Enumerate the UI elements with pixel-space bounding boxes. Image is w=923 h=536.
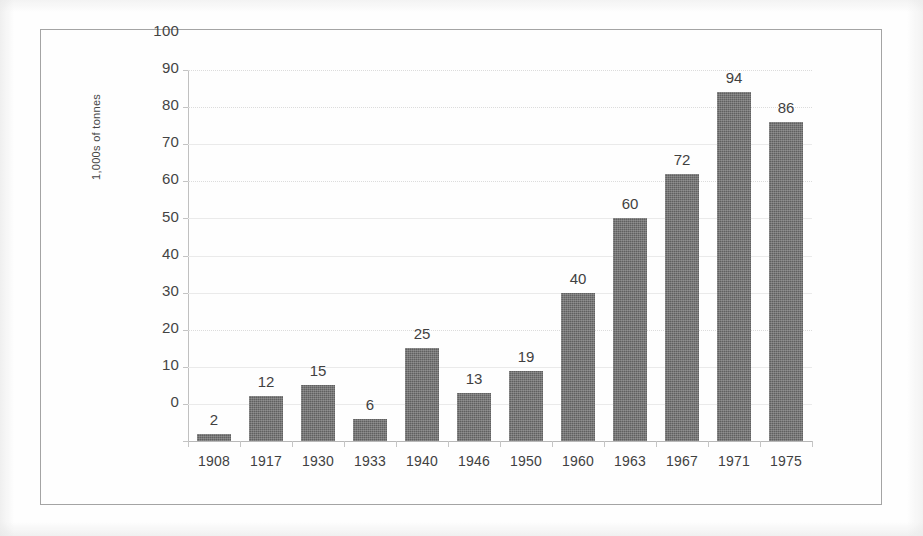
bar-value-label: 13 (448, 371, 500, 386)
bar[interactable] (561, 293, 595, 441)
y-tick-label-100: 100 (153, 23, 179, 38)
x-tick-mark (656, 441, 657, 447)
bar-value-label: 40 (552, 271, 604, 286)
bar-value-label: 15 (292, 363, 344, 378)
bar-value-label: 94 (708, 70, 760, 85)
x-tick-mark (500, 441, 501, 447)
bar-value-label: 6 (344, 397, 396, 412)
chart-frame: 1,000s of tonnes 1009080706050403020100 … (40, 29, 882, 505)
y-tick-label-70: 70 (162, 134, 179, 149)
x-tick-mark (708, 441, 709, 447)
x-tick-label-1967: 1967 (656, 454, 708, 468)
y-axis-title: 1,000s of tonnes (90, 94, 102, 180)
y-tick-label-50: 50 (162, 209, 179, 224)
bar-column[interactable]: 6 (344, 70, 396, 441)
y-tick-mark-20 (183, 367, 188, 368)
x-tick-label-1971: 1971 (708, 454, 760, 468)
plot-area: 2121562513194060729486 (188, 70, 812, 441)
bar[interactable] (405, 348, 439, 441)
x-tick-label-1917: 1917 (240, 454, 292, 468)
y-tick-mark-70 (183, 181, 188, 182)
y-tick-label-20: 20 (162, 320, 179, 335)
bar-column[interactable]: 86 (760, 70, 812, 441)
x-tick-mark (292, 441, 293, 447)
x-tick-mark (448, 441, 449, 447)
y-tick-mark-60 (183, 218, 188, 219)
x-tick-mark (188, 441, 189, 447)
bar-value-label: 2 (188, 412, 240, 427)
bar-column[interactable]: 25 (396, 70, 448, 441)
bar-column[interactable]: 2 (188, 70, 240, 441)
bar-column[interactable]: 40 (552, 70, 604, 441)
x-tick-mark (812, 441, 813, 447)
y-tick-label-90: 90 (162, 60, 179, 75)
y-tick-label-10: 10 (162, 357, 179, 372)
bar[interactable] (509, 371, 543, 441)
x-tick-label-1960: 1960 (552, 454, 604, 468)
bar-value-label: 19 (500, 349, 552, 364)
x-tick-label-1933: 1933 (344, 454, 396, 468)
y-tick-label-40: 40 (162, 246, 179, 261)
bar[interactable] (301, 385, 335, 441)
bar-value-label: 72 (656, 152, 708, 167)
x-tick-label-1930: 1930 (292, 454, 344, 468)
bar-column[interactable]: 94 (708, 70, 760, 441)
bar-value-label: 25 (396, 326, 448, 341)
bar[interactable] (457, 393, 491, 441)
y-tick-label-0: 0 (170, 394, 179, 409)
bar-column[interactable]: 60 (604, 70, 656, 441)
bar[interactable] (249, 396, 283, 441)
bar-column[interactable]: 15 (292, 70, 344, 441)
y-tick-mark-50 (183, 256, 188, 257)
bar-value-label: 60 (604, 196, 656, 211)
x-tick-label-1963: 1963 (604, 454, 656, 468)
y-tick-mark-40 (183, 293, 188, 294)
y-tick-label-60: 60 (162, 171, 179, 186)
x-tick-mark (760, 441, 761, 447)
y-tick-mark-80 (183, 144, 188, 145)
bar[interactable] (613, 218, 647, 441)
y-tick-mark-100 (183, 70, 188, 71)
y-tick-mark-90 (183, 107, 188, 108)
bar-column[interactable]: 19 (500, 70, 552, 441)
y-tick-mark-10 (183, 404, 188, 405)
x-tick-label-1908: 1908 (188, 454, 240, 468)
scanned-page-background: 1,000s of tonnes 1009080706050403020100 … (0, 0, 923, 536)
bar-value-label: 86 (760, 100, 812, 115)
x-tick-label-1950: 1950 (500, 454, 552, 468)
x-tick-label-1940: 1940 (396, 454, 448, 468)
x-tick-mark (396, 441, 397, 447)
bar[interactable] (769, 122, 803, 441)
y-axis-tick-labels: 1009080706050403020100 (127, 30, 179, 504)
y-tick-label-80: 80 (162, 97, 179, 112)
bar-column[interactable]: 12 (240, 70, 292, 441)
x-axis-tick-labels: 1908191719301933194019461950196019631967… (188, 454, 813, 478)
x-tick-mark (604, 441, 605, 447)
bar[interactable] (353, 419, 387, 441)
bar-value-label: 12 (240, 374, 292, 389)
bar-column[interactable]: 13 (448, 70, 500, 441)
x-tick-mark (344, 441, 345, 447)
bar-column[interactable]: 72 (656, 70, 708, 441)
x-tick-label-1975: 1975 (760, 454, 812, 468)
bar[interactable] (197, 434, 231, 441)
x-tick-mark (240, 441, 241, 447)
x-tick-mark (552, 441, 553, 447)
y-tick-mark-30 (183, 330, 188, 331)
y-tick-label-30: 30 (162, 283, 179, 298)
x-tick-label-1946: 1946 (448, 454, 500, 468)
bar[interactable] (717, 92, 751, 441)
bar[interactable] (665, 174, 699, 441)
